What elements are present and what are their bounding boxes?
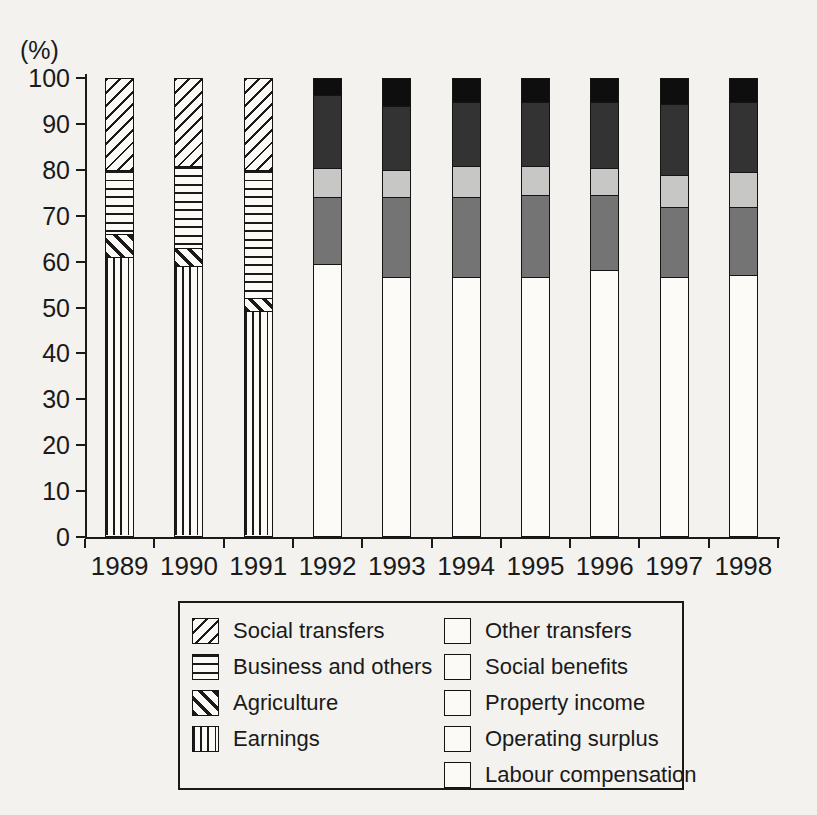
bar-1993 [382, 78, 411, 537]
bar-1997 [660, 78, 689, 537]
segment-other_transfers [522, 79, 549, 102]
legend-label: Social transfers [233, 618, 385, 644]
segment-property [591, 168, 618, 195]
bar-1996 [590, 78, 619, 537]
legend-swatch-other_transfers [444, 618, 471, 644]
legend-item-agriculture: Agriculture [192, 685, 432, 721]
x-tick-mark [777, 539, 779, 548]
legend-item-other_transfers: Other transfers [444, 613, 697, 649]
y-tick-mark [76, 169, 85, 171]
segment-labour [383, 277, 410, 535]
legend-label: Property income [485, 690, 645, 716]
legend-item-operating: Operating surplus [444, 721, 697, 757]
y-tick-label: 90 [16, 110, 70, 138]
segment-earnings [106, 257, 133, 535]
x-tick-mark [431, 539, 433, 548]
x-tick-mark [569, 539, 571, 548]
segment-social_transfers [245, 79, 272, 170]
segment-agriculture [175, 248, 202, 266]
legend-label: Agriculture [233, 690, 338, 716]
segment-agriculture [106, 234, 133, 257]
legend-swatch-property [444, 690, 471, 716]
segment-business [245, 170, 272, 298]
segment-business [175, 166, 202, 248]
segment-benefits [730, 102, 757, 173]
segment-property [453, 166, 480, 198]
segment-property [522, 166, 549, 196]
x-label-1991: 1991 [223, 551, 293, 582]
legend-item-labour: Labour compensation [444, 757, 697, 793]
segment-other_transfers [661, 79, 688, 104]
segment-social_transfers [106, 79, 133, 170]
segment-other_transfers [314, 79, 341, 95]
segment-labour [730, 275, 757, 535]
segment-other_transfers [591, 79, 618, 102]
chart-legend: Social transfersBusiness and othersAgric… [178, 601, 684, 790]
x-label-1993: 1993 [362, 551, 432, 582]
x-tick-mark [638, 539, 640, 548]
x-tick-mark [84, 539, 86, 548]
segment-earnings [245, 311, 272, 534]
segment-social_transfers [175, 79, 202, 166]
segment-property [730, 172, 757, 206]
segment-other_transfers [453, 79, 480, 102]
y-tick-mark [76, 398, 85, 400]
legend-right-column: Other transfersSocial benefitsProperty i… [444, 613, 697, 793]
legend-item-social_transfers: Social transfers [192, 613, 432, 649]
legend-swatch-earnings [192, 726, 219, 752]
x-label-1995: 1995 [500, 551, 570, 582]
segment-labour [591, 270, 618, 534]
legend-label: Operating surplus [485, 726, 659, 752]
x-label-1989: 1989 [85, 551, 155, 582]
y-tick-label: 70 [16, 202, 70, 230]
x-tick-mark [223, 539, 225, 548]
y-tick-mark [76, 536, 85, 538]
legend-swatch-operating [444, 726, 471, 752]
segment-earnings [175, 266, 202, 535]
segment-other_transfers [383, 79, 410, 106]
y-tick-mark [76, 444, 85, 446]
bar-1991 [244, 78, 273, 537]
x-label-1990: 1990 [154, 551, 224, 582]
y-tick-label: 60 [16, 248, 70, 276]
x-tick-mark [500, 539, 502, 548]
legend-swatch-labour [444, 762, 471, 788]
bar-1994 [452, 78, 481, 537]
segment-labour [661, 277, 688, 535]
legend-left-column: Social transfersBusiness and othersAgric… [192, 613, 432, 757]
segment-property [383, 170, 410, 197]
bar-1990 [174, 78, 203, 537]
x-axis-line [85, 537, 780, 539]
y-tick-mark [76, 77, 85, 79]
segment-labour [522, 277, 549, 535]
y-tick-label: 10 [16, 477, 70, 505]
x-tick-mark [292, 539, 294, 548]
segment-agriculture [245, 298, 272, 312]
legend-item-business: Business and others [192, 649, 432, 685]
segment-property [314, 168, 341, 198]
y-tick-mark [76, 352, 85, 354]
legend-swatch-benefits [444, 654, 471, 680]
legend-label: Business and others [233, 654, 432, 680]
segment-property [661, 175, 688, 207]
bar-1989 [105, 78, 134, 537]
y-tick-label: 50 [16, 294, 70, 322]
y-tick-mark [76, 215, 85, 217]
legend-label: Labour compensation [485, 762, 697, 788]
legend-swatch-agriculture [192, 690, 219, 716]
legend-swatch-business [192, 654, 219, 680]
stacked-bar-chart-figure: (%) 1009080706050403020100 1989199019911… [0, 0, 817, 815]
y-axis-unit-label: (%) [20, 36, 59, 65]
legend-item-earnings: Earnings [192, 721, 432, 757]
bar-1998 [729, 78, 758, 537]
y-axis-line [85, 74, 87, 539]
legend-swatch-social_transfers [192, 618, 219, 644]
bar-1995 [521, 78, 550, 537]
y-tick-mark [76, 490, 85, 492]
segment-business [106, 170, 133, 234]
segment-operating [314, 197, 341, 263]
legend-item-property: Property income [444, 685, 697, 721]
y-tick-mark [76, 261, 85, 263]
legend-label: Social benefits [485, 654, 628, 680]
segment-operating [730, 207, 757, 275]
